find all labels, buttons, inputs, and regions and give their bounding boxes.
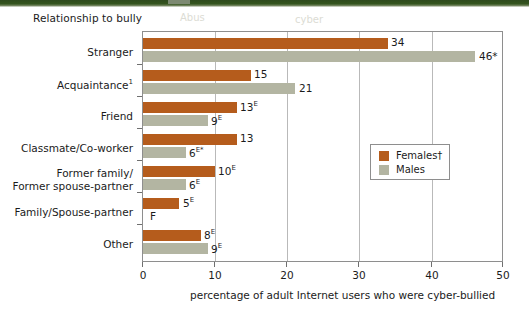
value-label-males-friend: 9E bbox=[211, 114, 222, 127]
bar-males-friend bbox=[143, 115, 208, 126]
category-label-stranger: Stranger bbox=[0, 46, 133, 58]
bar-females-stranger bbox=[143, 38, 388, 49]
legend-label-females: Females† bbox=[396, 150, 442, 161]
value-label-males-stranger: 46* bbox=[479, 50, 498, 62]
value-label-females-former-family: 10E bbox=[218, 164, 236, 177]
bar-females-family-spouse bbox=[143, 198, 179, 209]
gridline-20 bbox=[287, 32, 288, 261]
value-label-females-friend: 13E bbox=[240, 100, 258, 113]
bar-males-acquaintance bbox=[143, 83, 295, 94]
x-tick-label-30: 30 bbox=[344, 269, 374, 281]
y-axis-title: Relationship to bully bbox=[33, 12, 142, 24]
category-label-former-family: Former family/ bbox=[0, 167, 133, 179]
category-label-classmate-coworker: Classmate/Co-worker bbox=[0, 142, 133, 154]
legend-swatch-males bbox=[379, 165, 389, 175]
value-label-females-stranger: 34 bbox=[391, 36, 404, 48]
x-tick-0 bbox=[142, 262, 143, 267]
category-label-friend: Friend bbox=[0, 110, 133, 122]
bar-males-other bbox=[143, 243, 208, 254]
bar-females-classmate bbox=[143, 134, 237, 145]
value-label-males-former-family: 6E bbox=[189, 178, 200, 191]
bar-females-acquaintance bbox=[143, 70, 251, 81]
x-tick-label-10: 10 bbox=[200, 269, 230, 281]
bar-males-classmate bbox=[143, 147, 186, 158]
value-label-females-family-spouse: 5E bbox=[183, 196, 194, 209]
legend-swatch-females bbox=[379, 151, 389, 161]
value-label-females-acquaintance: 15 bbox=[254, 68, 267, 80]
bar-females-former-family bbox=[143, 166, 215, 177]
category-label-family-spouse-partner: Family/Spouse-partner bbox=[0, 206, 133, 218]
legend-label-males: Males bbox=[396, 164, 425, 175]
x-tick-label-20: 20 bbox=[272, 269, 302, 281]
value-label-males-family-spouse-suppressed: F bbox=[150, 210, 156, 222]
x-tick-10 bbox=[214, 262, 215, 267]
category-label-acquaintance: Acquaintance1 bbox=[0, 78, 133, 91]
category-label-former-family-line2: Former spouse-partner bbox=[0, 180, 133, 192]
bar-males-stranger bbox=[143, 51, 475, 62]
value-label-males-acquaintance: 21 bbox=[299, 82, 312, 94]
value-label-females-other: 8E bbox=[204, 228, 215, 241]
gridline-30 bbox=[359, 32, 360, 261]
x-tick-label-0: 0 bbox=[128, 269, 158, 281]
chart-legend: Females† Males bbox=[370, 144, 450, 180]
x-tick-label-50: 50 bbox=[488, 269, 518, 281]
value-label-males-classmate: 6E* bbox=[189, 146, 204, 159]
bar-males-former-family bbox=[143, 179, 186, 190]
ghost-text-bleed-2: cyber bbox=[295, 14, 323, 25]
value-label-females-classmate: 13 bbox=[240, 132, 253, 144]
value-label-males-other: 9E bbox=[211, 242, 222, 255]
gridline-10 bbox=[215, 32, 216, 261]
x-tick-40 bbox=[431, 262, 432, 267]
bar-females-friend bbox=[143, 102, 237, 113]
bar-females-other bbox=[143, 230, 201, 241]
category-label-other: Other bbox=[0, 238, 133, 250]
x-tick-label-40: 40 bbox=[417, 269, 447, 281]
x-tick-30 bbox=[358, 262, 359, 267]
x-axis-caption: percentage of adult Internet users who w… bbox=[190, 289, 495, 301]
ghost-text-bleed-1: Abus bbox=[180, 12, 205, 23]
footnote-marker-1: 1 bbox=[129, 78, 133, 86]
x-tick-50 bbox=[502, 262, 503, 267]
x-tick-20 bbox=[286, 262, 287, 267]
chart-figure: Relationship to bully Abus cyber Strange… bbox=[0, 0, 529, 312]
